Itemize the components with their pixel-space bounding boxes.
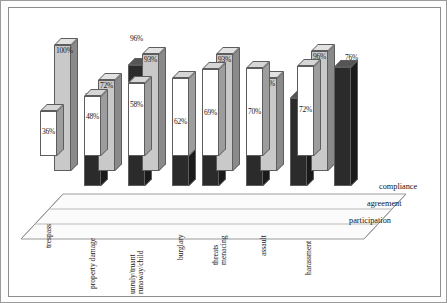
- category-label-line: runaway/child: [137, 251, 145, 294]
- category-label-line: burglary: [176, 234, 185, 260]
- bar-side: [71, 38, 78, 171]
- bar-side: [277, 71, 284, 171]
- bar-side: [57, 104, 64, 156]
- category-label-line: property damage: [88, 238, 97, 289]
- bar-unrulytruant-participation: [128, 83, 145, 156]
- bar-side: [189, 71, 196, 156]
- category-label-trespass: trespass: [45, 224, 53, 248]
- category-label-line: assault: [259, 235, 268, 256]
- bar-harassment-compliance: [334, 67, 351, 186]
- value-label: 93%: [144, 56, 157, 64]
- value-label: 72%: [299, 106, 312, 114]
- category-label-unruly-truant: unruly/truant runaway/child: [129, 251, 146, 294]
- value-label: 76%: [345, 54, 358, 62]
- category-label-burglary: burglary: [177, 234, 185, 260]
- value-label: 62%: [174, 118, 187, 126]
- value-label: 58%: [130, 101, 143, 109]
- bar-side: [351, 60, 358, 186]
- category-label-threats-menacing: threats menacing: [212, 235, 229, 265]
- chart-inner-border: 100% 36% 50% 72%: [8, 7, 441, 297]
- value-label: 36%: [42, 128, 55, 136]
- chart-plot-area: 100% 36% 50% 72%: [9, 8, 442, 298]
- category-label-line: harassment: [304, 241, 313, 275]
- category-label-property-damage: property damage: [89, 238, 97, 289]
- bar-propertydamage-participation: [84, 96, 101, 156]
- value-label: 69%: [204, 109, 217, 117]
- bar-side: [101, 89, 108, 156]
- bar-side: [219, 62, 226, 156]
- bar-face: [84, 96, 101, 156]
- bar-side: [263, 61, 270, 156]
- category-label-line: menacing: [220, 235, 228, 265]
- bar-side: [233, 47, 240, 171]
- bar-side: [145, 76, 152, 156]
- category-label-harassment: harassment: [305, 241, 313, 275]
- bar-face: [128, 83, 145, 156]
- value-label: 70%: [248, 108, 261, 116]
- category-label-line: trespass: [44, 224, 53, 248]
- value-label: 96%: [130, 35, 143, 43]
- series-label-compliance: compliance: [379, 182, 417, 191]
- figure-frame: 100% 36% 50% 72%: [0, 0, 447, 303]
- series-label-agreement: agreement: [367, 199, 402, 208]
- series-label-participation: participation: [349, 216, 391, 225]
- bar-side: [115, 73, 122, 171]
- value-label: 100%: [56, 47, 73, 55]
- bar-side: [314, 59, 321, 156]
- bar-side: [159, 47, 166, 171]
- bar-face: [334, 67, 351, 186]
- value-label: 48%: [86, 113, 99, 121]
- category-label-assault: assault: [260, 235, 268, 256]
